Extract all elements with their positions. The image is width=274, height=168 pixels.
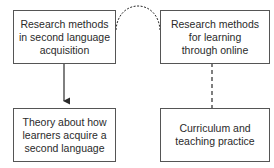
node-text-line: Curriculum and: [175, 122, 254, 135]
node-text-line: acquisition: [19, 44, 110, 57]
node-research-methods-sla: Research methods in second language acqu…: [13, 10, 116, 64]
dashed-arc-connector: [116, 6, 160, 30]
node-text-line: Research methods: [19, 18, 110, 31]
node-text-line: Research methods: [171, 18, 259, 31]
node-text-line: teaching practice: [175, 135, 254, 148]
node-curriculum: Curriculum and teaching practice: [160, 108, 270, 162]
node-text-line: Theory about how: [22, 116, 106, 129]
node-text-line: through online: [171, 44, 259, 57]
node-text-line: in second language: [19, 31, 110, 44]
node-text-line: learners acquire a: [22, 129, 106, 142]
node-research-methods-online: Research methods for learning through on…: [160, 10, 270, 64]
node-text-line: second language: [22, 142, 106, 155]
node-theory: Theory about how learners acquire a seco…: [13, 108, 116, 162]
node-text-line: for learning: [171, 31, 259, 44]
